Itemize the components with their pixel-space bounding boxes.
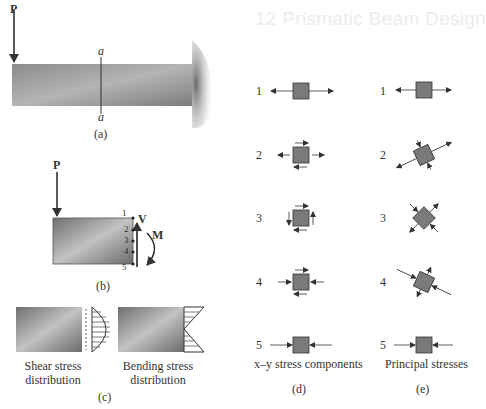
row-label-d-4: 4 — [256, 275, 262, 290]
bending-distribution-title: Bending stress distribution — [118, 359, 198, 387]
panel-c-shear — [16, 307, 110, 352]
beam-segment — [53, 218, 133, 264]
fixed-wall-support — [192, 40, 212, 128]
beam-body — [12, 64, 192, 106]
xy-element-5 — [270, 337, 332, 353]
parabolic-profile — [92, 307, 106, 352]
point-label-1: 1 — [122, 208, 127, 218]
row-label-e-5: 5 — [380, 338, 386, 353]
shear-v-label: V — [138, 212, 147, 227]
caption-d: (d) — [292, 382, 306, 397]
principal-stresses-title: Principal stresses — [385, 357, 468, 372]
caption-c: (c) — [98, 390, 111, 405]
row-label-d-3: 3 — [256, 211, 262, 226]
load-p-label-a: P — [10, 2, 17, 17]
point-label-5: 5 — [122, 262, 127, 272]
principal-element-5 — [394, 337, 453, 353]
row-label-e-2: 2 — [380, 148, 386, 163]
xy-element-1 — [271, 83, 333, 99]
panel-d-xy-elements — [270, 83, 333, 353]
principal-element-2 — [390, 128, 458, 182]
point-label-2: 2 — [124, 224, 129, 234]
row-label-e-3: 3 — [380, 211, 386, 226]
row-label-d-5: 5 — [256, 338, 262, 353]
xy-element-3 — [289, 206, 313, 230]
panel-e-principal-elements — [390, 82, 458, 353]
xy-components-title: x–y stress components — [254, 357, 363, 372]
linear-profile — [184, 307, 204, 352]
principal-element-4 — [390, 255, 458, 309]
principal-element-1 — [396, 82, 451, 98]
section-label-top: a — [98, 44, 104, 59]
xy-element-2 — [278, 143, 324, 167]
shear-beam-segment — [16, 307, 82, 352]
panel-a-cantilever — [12, 10, 212, 128]
shear-distribution-title: Shear stress distribution — [18, 359, 88, 387]
point-label-4: 4 — [124, 246, 129, 256]
caption-e: (e) — [416, 382, 429, 397]
moment-m-label: M — [152, 228, 163, 243]
row-label-d-1: 1 — [256, 84, 262, 99]
panel-c-bending — [118, 307, 204, 352]
caption-a: (a) — [94, 127, 107, 142]
caption-b: (b) — [96, 279, 110, 294]
row-label-e-4: 4 — [380, 275, 386, 290]
row-label-d-2: 2 — [256, 148, 262, 163]
principal-element-3 — [396, 190, 453, 247]
row-label-e-1: 1 — [380, 84, 386, 99]
load-p-label-b: P — [53, 158, 60, 173]
point-label-3: 3 — [124, 235, 129, 245]
xy-element-4 — [278, 270, 324, 294]
bending-beam-segment — [118, 307, 184, 352]
section-label-bottom: a — [98, 110, 104, 125]
